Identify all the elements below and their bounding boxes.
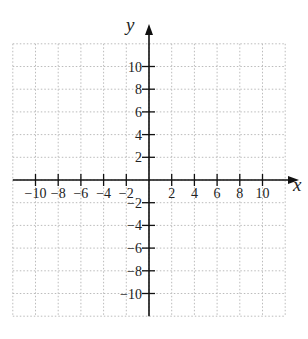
x-tick-label: −8 — [51, 186, 66, 201]
y-tick-label: −8 — [127, 264, 142, 279]
y-tick-label: 8 — [135, 82, 142, 97]
x-axis-label: x — [292, 174, 302, 195]
y-tick-label: 4 — [135, 128, 142, 143]
x-tick-label: 8 — [236, 186, 243, 201]
x-tick-label: 4 — [191, 186, 198, 201]
y-tick-label: −10 — [120, 287, 142, 302]
axes — [13, 24, 299, 316]
y-axis-label: y — [124, 14, 135, 35]
y-tick-label: −2 — [127, 196, 142, 211]
y-axis-arrow-icon — [145, 24, 153, 35]
x-tick-label: −6 — [73, 186, 88, 201]
y-tick-label: −4 — [127, 218, 142, 233]
x-tick-label: 2 — [168, 186, 175, 201]
coordinate-plane: −10−8−6−4−2246810108642−2−4−6−8−10 x y — [0, 0, 308, 339]
x-tick-label: −4 — [96, 186, 111, 201]
x-tick-label: 10 — [256, 186, 270, 201]
y-tick-label: 10 — [128, 60, 142, 75]
y-tick-label: 6 — [135, 105, 142, 120]
x-tick-label: −10 — [25, 186, 47, 201]
y-tick-label: 2 — [135, 150, 142, 165]
y-tick-label: −6 — [127, 241, 142, 256]
x-tick-label: 6 — [214, 186, 221, 201]
